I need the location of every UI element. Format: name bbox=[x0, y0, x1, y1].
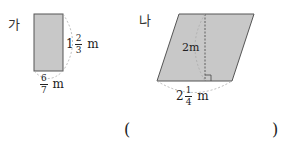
rectangle-width-label: 67 m bbox=[39, 74, 64, 95]
parallelogram-base-label: 214 m bbox=[176, 86, 209, 107]
figure-label-ga: 가 bbox=[8, 18, 20, 31]
answer-open-paren: ( bbox=[124, 122, 130, 138]
figure-label-na: 나 bbox=[139, 14, 151, 27]
rectangle-ga bbox=[34, 14, 63, 71]
rectangle-height-label: 123 m bbox=[66, 34, 99, 55]
parallelogram-na bbox=[157, 14, 254, 81]
answer-close-paren: ) bbox=[272, 122, 278, 138]
parallelogram-height-label: 2m bbox=[182, 42, 199, 53]
